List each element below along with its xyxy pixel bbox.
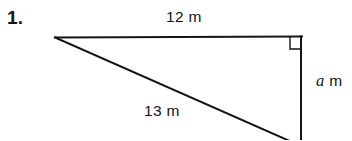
triangle-hypotenuse — [55, 38, 301, 141]
vertical-side-unit: m — [325, 72, 343, 89]
hypotenuse-length-label: 13 m — [144, 103, 180, 119]
top-side-length-label: 12 m — [166, 9, 202, 25]
problem-number: 1. — [7, 8, 23, 27]
triangle-top-side — [55, 37, 302, 38]
vertical-side-variable: a — [316, 71, 325, 90]
right-angle-marker-icon — [290, 37, 301, 49]
figure-page: 1. 12 m 13 m a m — [0, 0, 352, 140]
vertical-side-length-label: a m — [316, 73, 342, 90]
